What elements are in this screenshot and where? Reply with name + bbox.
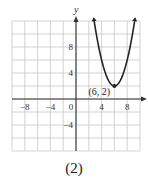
vertex-point bbox=[112, 84, 116, 88]
axes bbox=[12, 16, 147, 151]
x-tick-label: 4 bbox=[99, 102, 104, 112]
x-axis-label: x bbox=[147, 93, 148, 104]
coordinate-plane: −8−404884−4 x y (6, 2) bbox=[0, 0, 148, 180]
figure-caption: (2) bbox=[0, 160, 148, 177]
y-tick-label: 8 bbox=[69, 42, 74, 52]
x-tick-label: −4 bbox=[46, 102, 56, 112]
x-tick-label: 8 bbox=[125, 102, 130, 112]
vertex-label: (6, 2) bbox=[88, 86, 110, 98]
y-tick-label: −4 bbox=[63, 120, 73, 130]
y-axis-label: y bbox=[73, 4, 79, 15]
x-tick-label: −8 bbox=[20, 102, 30, 112]
x-tick-label: 0 bbox=[69, 102, 74, 112]
y-tick-label: 4 bbox=[69, 68, 74, 78]
